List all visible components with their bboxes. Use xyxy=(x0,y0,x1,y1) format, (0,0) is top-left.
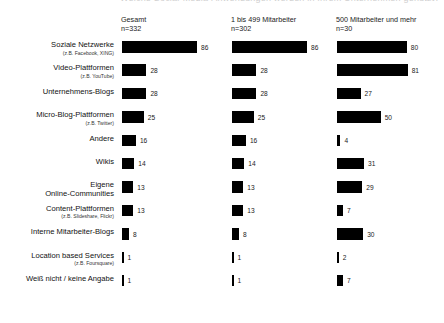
row-label-sub: (z.B. Twitter) xyxy=(0,120,114,126)
bar-value-label: 28 xyxy=(150,66,157,75)
bar-group: 1 xyxy=(232,275,260,289)
bar xyxy=(122,205,133,217)
bar-group: 1 xyxy=(122,275,150,289)
row-label: Weiß nicht / keine Angabe xyxy=(0,274,118,283)
column-header-gross: 500 Mitarbeiter und mehr n=30 xyxy=(336,15,416,33)
bar-group: 8 xyxy=(122,228,155,242)
bar xyxy=(232,252,234,264)
column-header-gross-n: n=30 xyxy=(336,24,416,33)
bar-group: 1 xyxy=(232,252,260,266)
bar xyxy=(337,158,364,170)
row-label-main: Video-Plattformen xyxy=(0,63,114,72)
chart-row: Content-Plattformen(z.B. Slideshare, Fli… xyxy=(0,204,444,227)
bar xyxy=(232,181,243,193)
chart-row: Wikis141431 xyxy=(0,157,444,180)
clipped-chart-title-text: Welche Social-Media-Anwendungen werden i… xyxy=(120,0,440,3)
bar xyxy=(232,64,256,76)
bar xyxy=(122,64,146,76)
bar xyxy=(337,64,408,76)
column-header-kmu: 1 bis 499 Mitarbeiter n=302 xyxy=(231,15,296,33)
bar-group: 7 xyxy=(337,205,369,219)
row-label-main: Andere xyxy=(0,134,114,143)
bar-group: 13 xyxy=(122,181,159,195)
bar-value-label: 81 xyxy=(412,66,419,75)
row-label: Soziale Netzwerke(z.B. Facebook, XING) xyxy=(0,40,118,56)
column-header-gesamt: Gesamt n=332 xyxy=(121,15,146,33)
bar xyxy=(232,205,243,217)
row-label-main: Interne Mitarbeiter-Blogs xyxy=(0,227,114,236)
row-label-sub: (z.B. Facebook, XING) xyxy=(0,50,114,56)
column-header-kmu-title: 1 bis 499 Mitarbeiter xyxy=(231,15,296,24)
bar xyxy=(337,41,407,53)
bar xyxy=(122,158,134,170)
bar-group: 86 xyxy=(232,41,333,55)
row-label: Interne Mitarbeiter-Blogs xyxy=(0,227,118,236)
bar-value-label: 16 xyxy=(140,136,147,145)
bar xyxy=(232,275,234,287)
column-header-gesamt-title: Gesamt xyxy=(121,15,146,24)
bar-value-label: 7 xyxy=(347,276,351,285)
bar xyxy=(122,275,124,287)
chart-row: Interne Mitarbeiter-Blogs8830 xyxy=(0,227,444,250)
bar xyxy=(122,252,124,264)
row-label: Location based Services(z.B. Foursquare) xyxy=(0,251,118,267)
row-label-main: Micro-Blog-Plattformen xyxy=(0,110,114,119)
bar xyxy=(122,228,129,240)
bar-value-label: 2 xyxy=(343,253,347,262)
bar xyxy=(232,135,246,147)
clipped-chart-title: Welche Social-Media-Anwendungen werden i… xyxy=(0,0,444,9)
row-label: Andere xyxy=(0,134,118,143)
column-headers: Gesamt n=332 1 bis 499 Mitarbeiter n=302… xyxy=(0,15,444,37)
chart-row: Micro-Blog-Plattformen(z.B. Twitter)2525… xyxy=(0,110,444,133)
row-label-main: Wikis xyxy=(0,157,114,166)
bar xyxy=(122,135,136,147)
bar-value-label: 8 xyxy=(133,230,137,239)
bar-group: 13 xyxy=(122,205,159,219)
bar-group: 28 xyxy=(232,88,282,102)
bar xyxy=(232,228,239,240)
column-header-gross-title: 500 Mitarbeiter und mehr xyxy=(336,15,416,24)
bar-value-label: 16 xyxy=(250,136,257,145)
chart-rows: Soziale Netzwerke(z.B. Facebook, XING)86… xyxy=(0,40,444,297)
bar-group: 86 xyxy=(122,41,223,55)
bar-value-label: 80 xyxy=(411,43,418,52)
bar-value-label: 7 xyxy=(347,206,351,215)
bar-group: 28 xyxy=(232,64,282,78)
bar-value-label: 14 xyxy=(248,159,255,168)
bar-value-label: 86 xyxy=(201,43,208,52)
bar-group: 7 xyxy=(337,275,369,289)
bar-group: 50 xyxy=(337,111,407,125)
bar-group: 28 xyxy=(122,64,172,78)
bar xyxy=(232,158,244,170)
row-label-sub: (z.B. Foursquare) xyxy=(0,260,114,266)
bar-value-label: 25 xyxy=(148,113,155,122)
bar xyxy=(122,41,197,53)
bar xyxy=(232,41,307,53)
row-label-sub: (z.B. Slideshare, Flickr) xyxy=(0,213,114,219)
row-label: Eigene Online-Communities xyxy=(0,180,118,198)
bar-group: 80 xyxy=(337,41,433,55)
bar-value-label: 29 xyxy=(366,183,373,192)
row-label: Content-Plattformen(z.B. Slideshare, Fli… xyxy=(0,204,118,220)
bar xyxy=(337,228,363,240)
bar xyxy=(232,111,254,123)
row-label-main: Weiß nicht / keine Angabe xyxy=(0,274,114,283)
bar-value-label: 28 xyxy=(260,89,267,98)
bar-value-label: 1 xyxy=(128,253,132,262)
bar-value-label: 1 xyxy=(128,276,132,285)
bar-group: 27 xyxy=(337,88,387,102)
chart-row: Location based Services(z.B. Foursquare)… xyxy=(0,251,444,274)
column-header-gesamt-n: n=332 xyxy=(121,24,146,33)
row-label-main: Unternehmens-Blogs xyxy=(0,87,114,96)
chart-row: Weiß nicht / keine Angabe117 xyxy=(0,274,444,297)
bar-group: 81 xyxy=(337,64,434,78)
bar-group: 31 xyxy=(337,158,390,172)
bar-group: 16 xyxy=(232,135,272,149)
chart-row: Video-Plattformen(z.B. YouTube)282881 xyxy=(0,63,444,86)
bar-value-label: 1 xyxy=(238,276,242,285)
bar-value-label: 28 xyxy=(260,66,267,75)
bar-value-label: 28 xyxy=(150,89,157,98)
bar-group: 1 xyxy=(122,252,150,266)
bar-value-label: 4 xyxy=(344,136,348,145)
bar-group: 2 xyxy=(337,252,365,266)
